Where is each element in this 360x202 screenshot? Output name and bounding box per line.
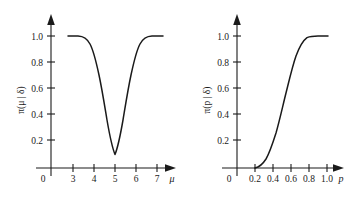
chart-panel-right: 1.0 0.8 0.6 0.4 0.2 0 0.2 0.4 0.6 0.8 1.… <box>180 0 360 202</box>
y-tick-label: 0.2 <box>217 136 229 146</box>
y-tick-label: 0.6 <box>31 84 43 94</box>
x-axis-arrow-icon <box>165 164 176 172</box>
chart-right-svg: 1.0 0.8 0.6 0.4 0.2 0 0.2 0.4 0.6 0.8 1.… <box>180 0 360 202</box>
x-tick-label: 0.2 <box>249 174 261 184</box>
x-axis-arrow-icon <box>333 164 344 172</box>
x-tick-label: 0.6 <box>285 174 297 184</box>
x-tick-label: 3 <box>71 174 76 184</box>
x-axis-left <box>36 164 176 172</box>
x-tick-label: 7 <box>155 174 160 184</box>
y-tick-label: 0.4 <box>31 110 43 120</box>
y-tick-label: 0.2 <box>31 136 43 146</box>
y-tick-label: 0.8 <box>217 58 229 68</box>
y-axis-label: π(p | δ) <box>202 86 213 113</box>
origin-label: 0 <box>227 174 232 184</box>
chart-panel-left: 1.0 0.8 0.6 0.4 0.2 0 3 4 5 6 7 μ π(μ | … <box>0 0 180 202</box>
x-tick-label: 1.0 <box>321 174 333 184</box>
x-tick-label: 6 <box>134 174 139 184</box>
y-axis-arrow-icon <box>233 14 241 25</box>
y-tick-label: 0.4 <box>217 110 229 120</box>
chart-left-svg: 1.0 0.8 0.6 0.4 0.2 0 3 4 5 6 7 μ π(μ | … <box>0 0 180 202</box>
y-axis-left <box>47 14 55 176</box>
x-axis-label: p <box>338 173 344 184</box>
y-tick-label: 1.0 <box>31 32 43 42</box>
figure-container: 1.0 0.8 0.6 0.4 0.2 0 3 4 5 6 7 μ π(μ | … <box>0 0 360 202</box>
x-tick-label: 5 <box>113 174 118 184</box>
x-axis-right <box>222 164 344 172</box>
y-tick-label: 0.6 <box>217 84 229 94</box>
curve-pi-p <box>255 36 328 168</box>
y-tick-label: 0.8 <box>31 58 43 68</box>
x-tick-label: 0.4 <box>267 174 279 184</box>
curve-pi-mu <box>68 36 163 155</box>
origin-label: 0 <box>41 174 46 184</box>
y-axis-label: π(μ | δ) <box>16 86 27 113</box>
x-tick-label: 0.8 <box>303 174 315 184</box>
x-axis-label: μ <box>168 173 174 184</box>
y-axis-right <box>233 14 241 176</box>
x-tick-label: 4 <box>92 174 97 184</box>
y-axis-arrow-icon <box>47 14 55 25</box>
y-tick-label: 1.0 <box>217 32 229 42</box>
